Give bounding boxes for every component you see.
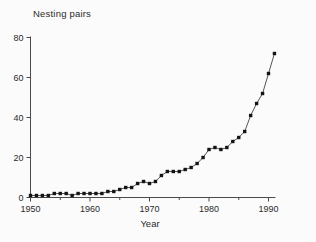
data-point-marker	[148, 182, 151, 185]
data-point-marker	[166, 170, 169, 173]
y-tick-label: 0	[18, 193, 23, 203]
x-tick-label: 1950	[20, 204, 40, 214]
data-point-marker	[65, 192, 68, 195]
data-point-marker	[136, 182, 139, 185]
data-point-marker	[207, 148, 210, 151]
x-tick-label: 1970	[139, 204, 159, 214]
data-point-marker	[219, 148, 222, 151]
data-point-marker	[130, 186, 133, 189]
data-point-marker	[82, 192, 85, 195]
data-point-marker	[172, 170, 175, 173]
data-point-marker	[195, 162, 198, 165]
y-tick-label: 20	[13, 153, 23, 163]
x-tick-label: 1980	[199, 204, 219, 214]
data-point-marker	[100, 192, 103, 195]
data-point-marker	[70, 194, 73, 197]
data-point-marker	[261, 92, 264, 95]
data-point-marker	[225, 146, 228, 149]
data-point-marker	[160, 174, 163, 177]
data-point-marker	[189, 166, 192, 169]
data-point-marker	[53, 192, 56, 195]
data-point-marker	[178, 170, 181, 173]
data-point-marker	[267, 72, 270, 75]
data-point-marker	[106, 190, 109, 193]
x-tick-label: 1990	[258, 204, 278, 214]
data-point-marker	[59, 192, 62, 195]
data-point-marker	[76, 192, 79, 195]
data-point-marker	[273, 52, 276, 55]
data-point-marker	[154, 180, 157, 183]
data-point-marker	[29, 194, 32, 197]
data-point-marker	[88, 192, 91, 195]
x-axis-label: Year	[0, 218, 300, 229]
data-point-marker	[124, 186, 127, 189]
data-point-marker	[201, 156, 204, 159]
data-point-marker	[35, 194, 38, 197]
data-point-marker	[237, 136, 240, 139]
x-tick-label: 1960	[80, 204, 100, 214]
nesting-pairs-chart: Nesting pairs 02040608019501960197019801…	[0, 0, 316, 242]
data-point-marker	[243, 130, 246, 133]
y-tick-label: 80	[13, 33, 23, 43]
data-point-marker	[142, 180, 145, 183]
data-point-marker	[94, 192, 97, 195]
data-point-marker	[41, 194, 44, 197]
data-point-marker	[118, 188, 121, 191]
data-point-marker	[231, 140, 234, 143]
data-point-marker	[112, 190, 115, 193]
data-point-marker	[255, 102, 258, 105]
data-point-marker	[249, 114, 252, 117]
data-point-marker	[213, 146, 216, 149]
y-tick-label: 40	[13, 113, 23, 123]
y-tick-label: 60	[13, 73, 23, 83]
data-point-marker	[184, 168, 187, 171]
data-line	[31, 54, 275, 196]
plot-area: 02040608019501960197019801990	[0, 0, 316, 242]
data-point-marker	[47, 194, 50, 197]
